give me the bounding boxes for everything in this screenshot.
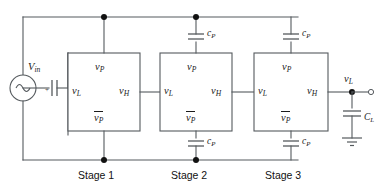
stage1-port-left-label: vL xyxy=(72,86,81,97)
source-label: Vin xyxy=(28,62,40,73)
stage1-bottom-node xyxy=(101,157,107,163)
stage3-port-bottom-label: vP xyxy=(281,111,290,125)
input-cap-polarity-label: + xyxy=(45,86,49,94)
stage3-bottom-cap-label: cP xyxy=(302,137,310,147)
stage2-caption: Stage 2 xyxy=(171,169,207,181)
stage2-port-bottom-label: vP xyxy=(186,111,195,125)
stage2-port-left-label: vL xyxy=(164,86,173,97)
stage2-port-top-label: vP xyxy=(187,62,196,73)
stage2-bottom-node xyxy=(193,157,199,163)
stage2-port-right-label: vH xyxy=(211,86,221,97)
stage1-caption: Stage 1 xyxy=(78,169,114,181)
stage3-top-cap-label: cP xyxy=(302,29,310,39)
stage1-port-right-label: vH xyxy=(119,86,129,97)
stage2-top-cap-label: cP xyxy=(207,29,215,39)
stage3-port-top-label: vP xyxy=(282,62,291,73)
output-node-label: vL xyxy=(344,74,353,85)
load-cap-label: CL xyxy=(364,113,374,123)
stage3-port-left-label: vL xyxy=(258,86,267,97)
stage3-port-right-label: vH xyxy=(307,86,317,97)
stage1-top-node xyxy=(101,14,107,20)
stage1-port-top-label: vP xyxy=(95,62,104,73)
schematic-canvas xyxy=(0,0,386,192)
stage2-top-node xyxy=(193,14,199,20)
stage3-caption: Stage 3 xyxy=(265,169,301,181)
circuit-diagram: Vin + vP vL vH vP vP vL vH vP vP vL vH v… xyxy=(0,0,386,192)
stage2-bottom-cap-label: cP xyxy=(207,137,215,147)
stage1-port-bottom-label: vP xyxy=(94,111,103,125)
output-terminal[interactable] xyxy=(368,89,373,94)
